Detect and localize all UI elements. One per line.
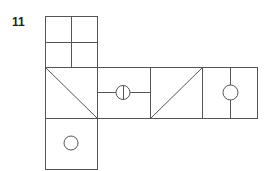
face-line-split-circle: [98, 68, 151, 119]
face-diagonal-down: [46, 68, 98, 119]
face-bottom-circle: [46, 119, 98, 170]
circle-icon: [223, 85, 238, 100]
cube-net-diagram: [0, 0, 269, 171]
face-top-quadrants: [46, 17, 98, 68]
face-vertical-line-circle: [203, 68, 258, 119]
face-diagonal-up: [151, 68, 203, 119]
circle-icon: [64, 136, 78, 150]
